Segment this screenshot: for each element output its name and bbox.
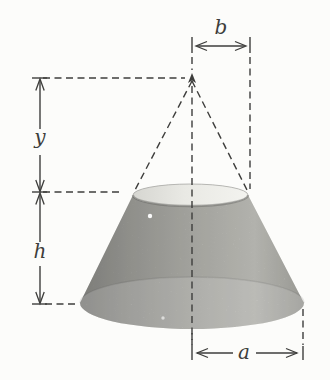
label-a: a — [238, 340, 250, 364]
label-b: b — [215, 15, 228, 39]
figure-page: b y h a — [0, 0, 330, 380]
label-y: y — [33, 125, 46, 149]
label-h: h — [34, 239, 47, 263]
white-speck-lower — [161, 316, 164, 319]
white-speck-upper — [148, 214, 152, 218]
frustum-diagram: b y h a — [0, 0, 330, 380]
